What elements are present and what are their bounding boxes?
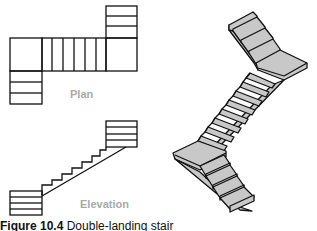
- plan-lower-flight: [10, 71, 42, 104]
- plan-label: Plan: [70, 88, 93, 100]
- figure-caption-text: Double-landing stair: [67, 219, 174, 231]
- figure-caption-label: Figure 10.4: [0, 219, 63, 231]
- elevation-middle-flight-steps: [42, 147, 106, 195]
- plan-upper-flight: [106, 6, 137, 38]
- plan-lower-landing: [10, 38, 42, 71]
- double-landing-stair-diagram: [0, 0, 317, 231]
- elevation-label: Elevation: [80, 198, 129, 210]
- isometric-view: [173, 12, 307, 212]
- figure-caption: Figure 10.4 Double-landing stair: [0, 219, 173, 231]
- plan-upper-landing: [106, 38, 137, 71]
- elevation-stringer: [42, 147, 126, 196]
